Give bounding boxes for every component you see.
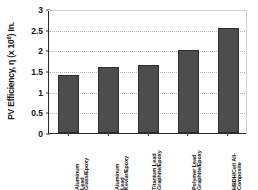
x-axis-category-label: AluminumLeadKevlar/Epoxy — [115, 136, 129, 190]
y-axis-title-suffix: ) In. — [6, 22, 16, 36]
x-axis-category-label: Polymer LeadGraphite/Epoxy — [192, 136, 206, 190]
x-axis-category-labels: AluminumLeadGlass/EpoxyAluminumLeadKevla… — [48, 136, 247, 190]
y-axis-tick-labels: 00.511.522.53 — [20, 6, 46, 134]
x-axis-tick-mark — [148, 132, 149, 136]
bar — [178, 50, 199, 133]
x-axis-category-line: Graphite/Epoxy — [157, 136, 162, 190]
y-axis-tick-label: 3 — [38, 5, 43, 15]
y-axis-tick-label: 1.5 — [31, 67, 43, 77]
bar — [98, 67, 119, 133]
y-axis-tick-label: 2 — [38, 46, 43, 56]
y-axis-title-exponent: 6 — [6, 36, 12, 39]
bar-chart-figure: PV Efficiency, η (x 106) In. 00.511.522.… — [0, 0, 258, 190]
x-axis-category-label: AluminumLeadGlass/Epoxy — [75, 136, 89, 190]
x-axis-category-line: Glass/Epoxy — [84, 136, 89, 190]
x-axis-tick-mark — [108, 132, 109, 136]
y-axis-tick-label: 1 — [38, 88, 43, 98]
y-axis-tick-label: 0.5 — [31, 108, 43, 118]
x-axis-tick-mark — [227, 132, 228, 136]
bar — [58, 75, 79, 133]
bar — [218, 28, 239, 133]
y-axis-tick-label: 2.5 — [31, 26, 43, 36]
x-axis-category-line: Composite — [236, 136, 241, 190]
x-axis-category-line: Graphite/Epoxy — [196, 136, 201, 190]
x-axis-category-label: Titanium LeadGraphite/Epoxy — [152, 136, 166, 190]
x-axis-tick-mark — [187, 132, 188, 136]
y-axis-title: PV Efficiency, η (x 106) In. — [2, 6, 20, 136]
x-axis-category-line: Kevlar/Epoxy — [124, 136, 129, 190]
y-axis-title-prefix: PV Efficiency, η (x 10 — [6, 39, 16, 119]
y-axis-tick-label: 0 — [38, 129, 43, 139]
bar-series — [49, 10, 247, 133]
x-axis-tick-mark — [68, 132, 69, 136]
bar — [138, 65, 159, 133]
y-axis-title-text: PV Efficiency, η (x 106) In. — [6, 22, 17, 120]
plot-area — [48, 10, 247, 134]
x-axis-category-label: HBDH/Cell All-Composite — [232, 136, 246, 190]
